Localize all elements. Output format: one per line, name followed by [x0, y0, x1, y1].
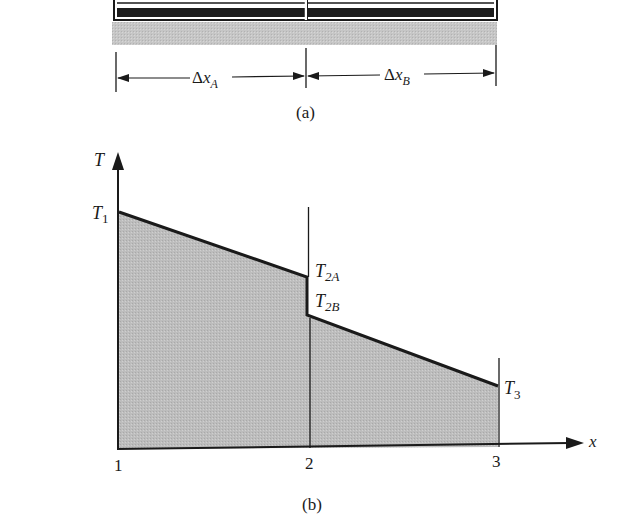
arrowhead-right-icon: [293, 72, 305, 80]
label-t1: T1: [92, 203, 109, 226]
caption-a: (a): [296, 103, 315, 122]
x-tick-1: 1: [114, 456, 123, 475]
dim-label-delta-xa: ΔxA: [192, 68, 218, 91]
figure-a-composite-wall: [112, 0, 497, 45]
label-t3: T3: [504, 378, 521, 402]
x-axis-arrow-icon: [566, 437, 584, 449]
wall-gray-band: [112, 22, 497, 45]
x-tick-2: 2: [305, 454, 314, 473]
arrowhead-left-icon: [307, 72, 319, 80]
arrowhead-right-icon: [483, 69, 495, 77]
figure-b-temperature-profile: [112, 152, 584, 449]
arrowhead-left-icon: [117, 74, 129, 82]
label-t2a: T2A: [315, 261, 340, 284]
t-axis-arrow-icon: [112, 152, 124, 170]
dimension-lines: [116, 45, 496, 92]
label-t2b: T2B: [315, 291, 340, 314]
caption-b: (b): [302, 495, 322, 514]
x-axis-label: x: [588, 432, 597, 451]
dim-label-delta-xb: ΔxB: [384, 65, 410, 88]
t-axis-label: T: [94, 150, 106, 170]
diagram-canvas: ΔxA ΔxB (a) T x T1 T2A T2B T3 1 2: [0, 0, 625, 514]
x-tick-3: 3: [492, 452, 501, 471]
